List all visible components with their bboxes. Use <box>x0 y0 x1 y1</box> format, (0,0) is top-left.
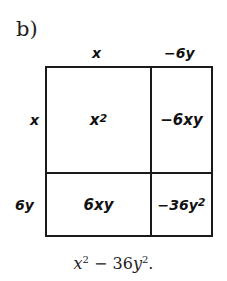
cell-x-squared-base: x <box>90 111 100 129</box>
result-suffix: . <box>148 254 153 273</box>
result-term1-base: x <box>74 254 83 273</box>
cell-neg36y-base: −36y <box>158 197 198 213</box>
row-header-6y: 6y <box>15 197 34 213</box>
cell-neg6xy-text: −6xy <box>160 111 202 129</box>
cell-6xy: 6xy <box>47 174 150 235</box>
cell-6xy-text: 6xy <box>84 196 114 214</box>
area-model-grid: x2 −6xy 6xy −36y2 <box>45 66 213 237</box>
result-term2-base: y <box>133 254 142 273</box>
column-header-x: x <box>92 45 101 61</box>
cell-neg6xy: −6xy <box>152 68 211 172</box>
cell-neg36y-squared: −36y2 <box>152 174 211 235</box>
part-label: b) <box>16 17 38 41</box>
row-header-x: x <box>30 112 39 128</box>
cell-x-squared-exponent: 2 <box>100 112 108 125</box>
column-header-neg6y: −6y <box>164 45 195 61</box>
result-expression: x2 − 36y2. <box>0 254 227 273</box>
result-operator: − 36 <box>89 254 133 273</box>
cell-neg36y-exponent: 2 <box>198 196 206 209</box>
cell-x-squared: x2 <box>47 68 150 172</box>
